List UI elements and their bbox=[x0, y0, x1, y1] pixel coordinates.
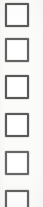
checkbox-3[interactable] bbox=[5, 75, 29, 99]
checkbox-2[interactable] bbox=[5, 38, 29, 62]
checkbox-row[interactable] bbox=[0, 113, 43, 137]
checkbox-row[interactable] bbox=[0, 3, 43, 27]
checkbox-4[interactable] bbox=[5, 113, 29, 137]
checkbox-row[interactable] bbox=[0, 190, 43, 207]
checkbox-6[interactable] bbox=[5, 190, 29, 207]
checkbox-row[interactable] bbox=[0, 38, 43, 62]
checkbox-column bbox=[0, 0, 43, 207]
checkbox-row[interactable] bbox=[0, 75, 43, 99]
paper-grain-overlay bbox=[0, 0, 43, 207]
checkbox-5[interactable] bbox=[5, 151, 29, 175]
checkbox-row[interactable] bbox=[0, 151, 43, 175]
checkbox-1[interactable] bbox=[5, 3, 29, 27]
